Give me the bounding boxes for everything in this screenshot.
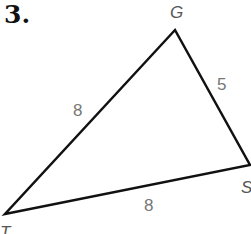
side-label-gs: 5	[217, 75, 226, 94]
triangle-diagram: G S T 8 5 8	[0, 0, 251, 234]
triangle-gst	[5, 30, 250, 214]
vertex-label-g: G	[170, 3, 183, 22]
side-label-ts: 8	[144, 196, 153, 215]
side-label-gt: 8	[73, 101, 82, 120]
vertex-label-t: T	[0, 223, 12, 234]
vertex-label-s: S	[241, 178, 251, 197]
